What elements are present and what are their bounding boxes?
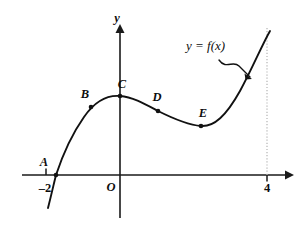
- function-label: y = f(x): [184, 38, 225, 53]
- point-dot-d: [156, 109, 161, 114]
- point-label-b: B: [80, 87, 89, 101]
- point-dot-b: [89, 105, 94, 110]
- y-axis-arrowhead: [116, 24, 125, 33]
- y-axis-label: y: [112, 11, 120, 25]
- x-axis: [22, 171, 294, 180]
- y-axis: [116, 24, 125, 218]
- x-tick-label-4: 4: [264, 181, 271, 195]
- point-dot-a: [54, 173, 59, 178]
- point-label-e: E: [198, 106, 207, 120]
- x-tick-label-minus2: –2: [38, 181, 52, 195]
- x-axis-arrowhead: [285, 171, 294, 180]
- function-curve: [48, 31, 270, 208]
- point-label-c: C: [118, 77, 127, 91]
- point-label-a: A: [39, 155, 48, 169]
- point-label-d: D: [151, 90, 161, 104]
- function-graph-figure: A B C D E y O –2 4 y = f(x): [0, 0, 300, 234]
- point-dot-c: [118, 94, 123, 99]
- point-dot-e: [199, 124, 204, 129]
- origin-label: O: [106, 180, 115, 194]
